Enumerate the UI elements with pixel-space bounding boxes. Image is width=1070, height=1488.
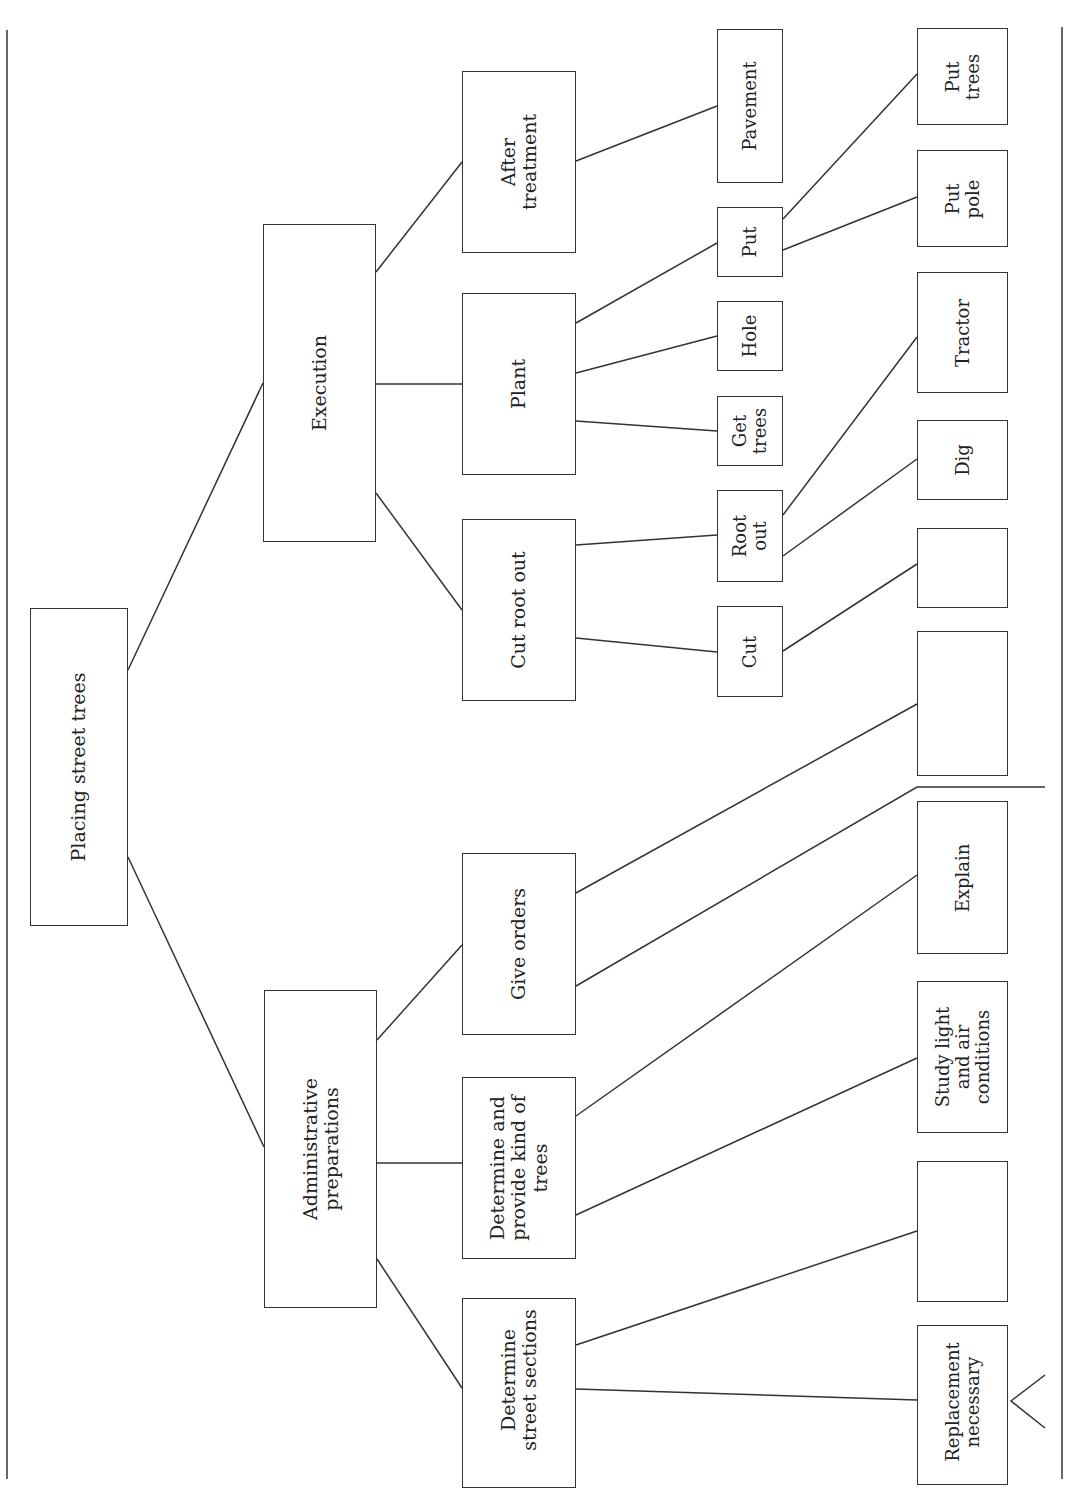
edge-plant-hole — [576, 336, 717, 373]
node-label: Give orders — [508, 888, 529, 1000]
node-label: Cut root out — [508, 551, 529, 668]
edge-admin-determine-sections — [377, 1259, 462, 1388]
node-put: Put — [717, 207, 783, 277]
node-label: Execution — [309, 335, 330, 431]
edge-execution-after-treatment — [376, 162, 462, 272]
node-label: Determine street sections — [498, 1309, 541, 1450]
node-administrative-preparations: Administrative preparations — [264, 990, 377, 1308]
node-blank-1 — [917, 528, 1008, 608]
edge-determine-sections-blank-3 — [576, 1231, 917, 1345]
node-label: Hole — [740, 315, 760, 358]
node-hole: Hole — [717, 301, 783, 371]
edge-admin-give-orders — [377, 945, 462, 1040]
node-label: Administrative preparations — [299, 1078, 342, 1220]
node-label: Get trees — [730, 408, 770, 454]
node-blank-3 — [917, 1161, 1008, 1302]
node-label: Study light and air conditions — [932, 1007, 992, 1107]
edge-determine-kind-study-light — [576, 1058, 917, 1215]
edge-put-put-pole — [783, 197, 917, 250]
edge-cut-root-out-root-out — [576, 535, 717, 545]
node-put-pole: Put pole — [917, 150, 1008, 247]
node-tractor: Tractor — [917, 272, 1008, 393]
node-label: Pavement — [740, 61, 760, 150]
node-root: Placing street trees — [30, 608, 128, 926]
edge-determine-kind-explain — [576, 875, 917, 1116]
edge-root-out-tractor — [783, 337, 917, 515]
chevron-left-icon — [1011, 1375, 1045, 1428]
node-label: Replacement necessary — [942, 1342, 982, 1462]
edge-root-execution — [128, 383, 263, 670]
node-label: Cut — [740, 635, 760, 668]
node-label: Placing street trees — [68, 673, 89, 862]
node-label: Explain — [952, 843, 972, 912]
node-plant: Plant — [462, 293, 576, 475]
node-label: Put — [740, 227, 760, 258]
edge-cut-root-out-cut — [576, 638, 717, 652]
node-label: Dig — [952, 444, 972, 476]
node-determine-street-sections: Determine street sections — [462, 1298, 576, 1488]
node-label: Put pole — [942, 179, 982, 218]
node-label: Put trees — [942, 53, 982, 99]
node-label: Plant — [508, 359, 529, 409]
node-label: Determine and provide kind of trees — [487, 1095, 551, 1240]
edge-root-admin — [128, 857, 264, 1147]
edge-cut-blank-1 — [783, 564, 917, 651]
node-after-treatment: After treatment — [462, 71, 576, 253]
edge-execution-cut-root-out — [376, 493, 462, 610]
node-pavement: Pavement — [717, 29, 783, 183]
node-replacement-necessary: Replacement necessary — [917, 1325, 1008, 1485]
edge-after-treatment-pavement — [576, 106, 717, 161]
edge-put-put-trees — [783, 74, 917, 219]
edge-plant-get-trees — [576, 421, 717, 431]
node-execution: Execution — [263, 224, 376, 542]
node-dig: Dig — [917, 420, 1008, 500]
edge-give-orders-blank-2 — [576, 704, 917, 893]
node-cut: Cut — [717, 606, 783, 697]
node-label: After treatment — [498, 114, 541, 210]
edge-root-out-dig — [783, 459, 917, 556]
node-label: Root out — [730, 515, 770, 557]
edge-plant-put — [576, 243, 717, 323]
node-explain: Explain — [917, 801, 1008, 954]
node-blank-2 — [917, 631, 1008, 776]
node-get-trees: Get trees — [717, 396, 783, 466]
node-determine-provide-kind-of-trees: Determine and provide kind of trees — [462, 1077, 576, 1259]
node-give-orders: Give orders — [462, 853, 576, 1035]
node-cut-root-out: Cut root out — [462, 519, 576, 701]
node-study-light-air-conditions: Study light and air conditions — [917, 981, 1008, 1133]
edge-determine-sections-replacement — [576, 1389, 917, 1400]
node-root-out: Root out — [717, 490, 783, 582]
node-label: Tractor — [952, 298, 972, 366]
node-put-trees: Put trees — [917, 28, 1008, 125]
